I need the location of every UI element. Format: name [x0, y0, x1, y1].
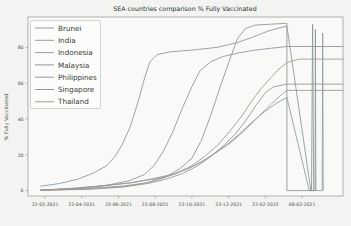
x-tick-label: 23-10-2021: [179, 202, 206, 207]
y-tick-label: 80: [18, 45, 24, 50]
x-tick-label: 08-02-2021: [289, 202, 316, 207]
chart-title: SEA countries comparison % Fully Vaccina…: [113, 5, 256, 13]
y-tick-label: 40: [18, 117, 24, 122]
legend-label: Thailand: [57, 97, 89, 106]
legend-label: Malaysia: [58, 61, 89, 70]
x-tick-label: 23-12-2021: [215, 202, 242, 207]
figure: SEA countries comparison % Fully Vaccina…: [0, 0, 351, 226]
y-axis: 020406080: [18, 45, 28, 193]
y-tick-label: 0: [21, 188, 24, 193]
vaccination-line-chart: SEA countries comparison % Fully Vaccina…: [0, 0, 351, 226]
x-tick-label: 22-08-2021: [142, 202, 169, 207]
legend-label: Indonesia: [58, 48, 93, 57]
y-axis-label: % Fully Vaccinated: [3, 94, 10, 141]
x-axis: 22-02-202122-04-202122-06-202122-08-2021…: [32, 196, 316, 207]
x-tick-label: 22-06-2021: [105, 202, 132, 207]
legend-label: Philippines: [58, 73, 97, 82]
legend: BruneiIndiaIndonesiaMalaysiaPhilippinesS…: [31, 21, 101, 109]
x-tick-label: 22-02-2021: [32, 202, 59, 207]
x-tick-label: 22-02-2022: [252, 202, 279, 207]
legend-label: India: [58, 36, 76, 45]
y-tick-label: 20: [18, 153, 24, 158]
legend-label: Brunei: [58, 24, 81, 33]
x-tick-label: 22-04-2021: [68, 202, 95, 207]
legend-label: Singapore: [58, 85, 95, 94]
y-tick-label: 60: [18, 81, 24, 86]
